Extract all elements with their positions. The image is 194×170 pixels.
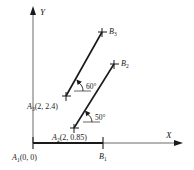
point-label-a2: A2(2, 0.85): [51, 133, 87, 143]
line-a3-b3: [66, 32, 102, 96]
point-label-a3-coords: (2, 2.4): [35, 102, 59, 111]
line-a2-b2: [74, 64, 114, 128]
point-label-b3: B3: [109, 27, 117, 37]
angle-label-50: 50°: [95, 113, 106, 122]
point-label-a3: A3(2, 2.4): [26, 102, 58, 112]
point-label-b1: B1: [99, 152, 107, 162]
figure-canvas: Y X B3 B2 B1 A3(2, 2.4) A2(2, 0.85) A1(0…: [0, 0, 194, 170]
y-axis-label: Y: [40, 7, 46, 17]
x-axis-label: X: [165, 130, 172, 140]
point-label-b1-sub: 1: [104, 156, 107, 162]
angle-upper-arrowhead: [76, 79, 82, 85]
segment-a3-b3: [62, 28, 107, 101]
point-label-b3-sub: 3: [114, 31, 117, 37]
y-axis-group: [30, 6, 36, 143]
y-axis-arrowhead: [30, 6, 36, 15]
segment-a2-b2: [70, 60, 119, 133]
point-label-b2: B2: [121, 59, 129, 69]
x-axis-arrowhead: [174, 140, 183, 146]
angle-label-60: 60°: [86, 82, 97, 91]
point-label-a1: A1(0, 0): [11, 153, 37, 163]
point-label-a1-coords: (0, 0): [20, 153, 38, 162]
geometry-figure: Y X B3 B2 B1 A3(2, 2.4) A2(2, 0.85) A1(0…: [0, 0, 194, 170]
point-label-b2-sub: 2: [126, 63, 129, 69]
point-label-a2-coords: (2, 0.85): [60, 133, 88, 142]
